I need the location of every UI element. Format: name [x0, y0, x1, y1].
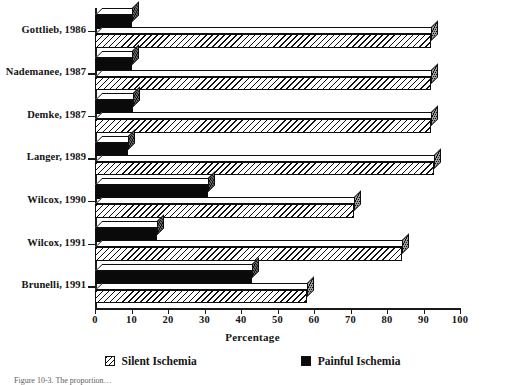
y-tick-2	[88, 116, 96, 118]
filled-square-icon	[301, 356, 311, 366]
bar-silent-4	[95, 204, 354, 218]
y-category-label-3: Langer, 1989	[0, 151, 86, 162]
x-tick-label-80: 80	[372, 314, 402, 325]
legend-label-painful-ischemia: Painful Ischemia	[318, 355, 401, 367]
x-tick-label-100: 100	[445, 314, 475, 325]
bar-top-face-silent-6	[95, 283, 314, 290]
y-tick-3	[88, 158, 96, 160]
x-tick-label-10: 10	[117, 314, 147, 325]
bar-top-face-silent-5	[95, 240, 409, 247]
bar-silent-1	[95, 77, 431, 91]
bar-top-face-silent-3	[95, 155, 442, 162]
x-tick-label-60: 60	[299, 314, 329, 325]
x-tick-label-20: 20	[153, 314, 183, 325]
y-category-label-2: Demke, 1987	[0, 109, 86, 120]
y-category-label-4: Wilcox, 1990	[0, 194, 86, 205]
bar-top-face-silent-2	[95, 112, 438, 119]
figure-caption: Figure 10-3. The proportion…	[14, 376, 314, 385]
bar-silent-2	[95, 119, 431, 133]
y-category-label-5: Wilcox, 1991	[0, 237, 86, 248]
x-tick-label-0: 0	[80, 314, 110, 325]
legend-item-silent-ischemia: Silent Ischemia	[105, 355, 197, 367]
bar-top-face-silent-4	[95, 197, 361, 204]
x-axis-label: Percentage	[0, 331, 505, 343]
legend-item-painful-ischemia: Painful Ischemia	[301, 355, 401, 367]
y-tick-0	[88, 31, 96, 33]
y-tick-1	[88, 73, 96, 75]
figure-container: 0102030405060708090100 Gottlieb, 1986Nad…	[0, 0, 505, 385]
bar-top-face-painful-4	[95, 178, 215, 185]
bar-silent-0	[95, 34, 431, 48]
y-tick-5	[88, 244, 96, 246]
bar-silent-3	[95, 162, 434, 176]
bar-silent-5	[95, 247, 402, 261]
bar-top-face-silent-0	[95, 27, 438, 34]
y-category-label-0: Gottlieb, 1986	[0, 24, 86, 35]
y-tick-6	[88, 286, 96, 288]
bar-top-face-silent-1	[95, 70, 438, 77]
x-tick-label-90: 90	[409, 314, 439, 325]
chart-legend: Silent Ischemia Painful Ischemia	[0, 355, 505, 367]
bar-top-face-painful-6	[95, 264, 259, 271]
x-tick-label-40: 40	[226, 314, 256, 325]
hatched-square-icon	[105, 356, 115, 366]
y-category-label-1: Nademanee, 1987	[0, 66, 86, 77]
y-category-label-6: Brunelli, 1991	[0, 279, 86, 290]
bar-silent-6	[95, 290, 307, 304]
bar-top-face-painful-5	[95, 221, 164, 228]
x-tick-label-30: 30	[190, 314, 220, 325]
x-tick-label-70: 70	[336, 314, 366, 325]
legend-label-silent-ischemia: Silent Ischemia	[122, 355, 197, 367]
x-tick-label-50: 50	[263, 314, 293, 325]
